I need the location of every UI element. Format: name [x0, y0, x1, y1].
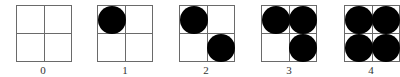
- filled-dot-bottom-right: [289, 34, 317, 62]
- filled-dot-top-left: [345, 6, 373, 34]
- grid-divider-horizontal: [345, 33, 399, 34]
- filled-dot-top-left: [262, 6, 290, 34]
- panel-3: [261, 5, 316, 61]
- filled-dot-bottom-right: [372, 34, 400, 62]
- grid-2x2: [261, 5, 317, 62]
- panel-label-0: 0: [15, 64, 71, 76]
- grid-divider-horizontal: [98, 33, 152, 34]
- filled-dot-bottom-right: [207, 34, 235, 62]
- panel-label-1: 1: [97, 64, 153, 76]
- panel-1: [97, 5, 152, 61]
- filled-dot-top-left: [180, 6, 208, 34]
- grid-2x2: [97, 5, 153, 62]
- grid-divider-horizontal: [180, 33, 234, 34]
- filled-dot-bottom-left: [345, 34, 373, 62]
- panel-4: [344, 5, 399, 61]
- panel-0: [16, 5, 71, 61]
- filled-dot-top-left: [98, 6, 126, 34]
- grid-divider-horizontal: [17, 33, 71, 34]
- grid-2x2: [179, 5, 235, 62]
- grid-2x2: [344, 5, 400, 62]
- panel-2: [179, 5, 234, 61]
- panel-label-3: 3: [261, 64, 317, 76]
- panel-label-2: 2: [178, 64, 234, 76]
- panel-label-4: 4: [343, 64, 399, 76]
- grid-2x2: [16, 5, 72, 62]
- filled-dot-top-right: [372, 6, 400, 34]
- filled-dot-top-right: [289, 6, 317, 34]
- grid-divider-horizontal: [262, 33, 316, 34]
